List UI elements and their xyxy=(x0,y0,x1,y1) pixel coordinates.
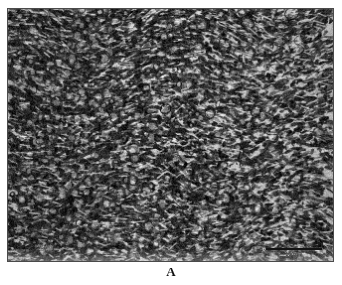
figure-panel: 100 µm A xyxy=(0,0,342,285)
panel-caption-label: A xyxy=(0,264,342,280)
micrograph-frame: 100 µm xyxy=(7,8,334,262)
micrograph-image xyxy=(8,9,333,261)
